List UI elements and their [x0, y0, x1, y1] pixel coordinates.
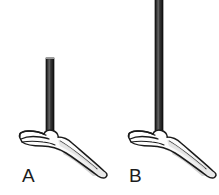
panel-a-label: A — [22, 166, 35, 185]
figure-container: A — [0, 0, 219, 195]
panel-a: A — [0, 0, 110, 195]
panel-b-graphic — [109, 0, 219, 195]
panel-b: B — [109, 0, 219, 195]
short-rod-icon — [46, 57, 54, 142]
long-rod-icon — [155, 0, 163, 142]
panel-b-label: B — [129, 166, 142, 185]
panel-a-graphic — [0, 0, 110, 195]
